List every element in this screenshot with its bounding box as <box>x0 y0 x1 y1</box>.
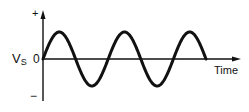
vs-label-subscript: S <box>21 57 27 67</box>
y-axis-plus-label: + <box>32 8 38 19</box>
x-axis-label: Time <box>214 65 238 76</box>
y-axis-minus-label: − <box>30 90 37 102</box>
vs-label: VS <box>12 52 27 65</box>
x-axis-arrow-icon <box>232 57 241 62</box>
vs-label-main: V <box>12 51 21 66</box>
y-axis-arrow-icon <box>41 10 46 19</box>
zero-label: 0 <box>33 53 40 65</box>
